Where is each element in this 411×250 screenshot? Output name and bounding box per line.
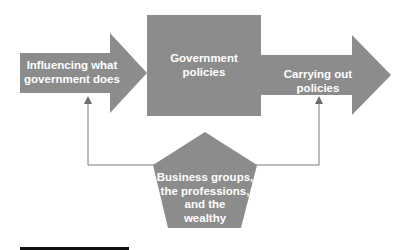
groups-label-line1: Business groups, [150, 171, 260, 185]
carrying-label: Carrying out policies [263, 68, 373, 95]
groups-label-line3: and the [150, 198, 260, 212]
policies-label-line1: Government [147, 52, 261, 66]
policies-label: Government policies [147, 52, 261, 79]
influencing-label: Influencing what government does [20, 59, 124, 86]
groups-label: Business groups, the professions, and th… [150, 171, 260, 225]
groups-label-line4: wealthy [150, 212, 260, 226]
groups-label-line2: the professions, [150, 185, 260, 199]
policies-label-line2: policies [147, 66, 261, 80]
carrying-label-text: Carrying out policies [263, 68, 373, 95]
connector-left-arrowhead-icon [84, 96, 92, 104]
influencing-label-line2: government does [20, 73, 124, 87]
connector-right-arrowhead-icon [315, 96, 323, 104]
influencing-label-line1: Influencing what [20, 59, 124, 73]
